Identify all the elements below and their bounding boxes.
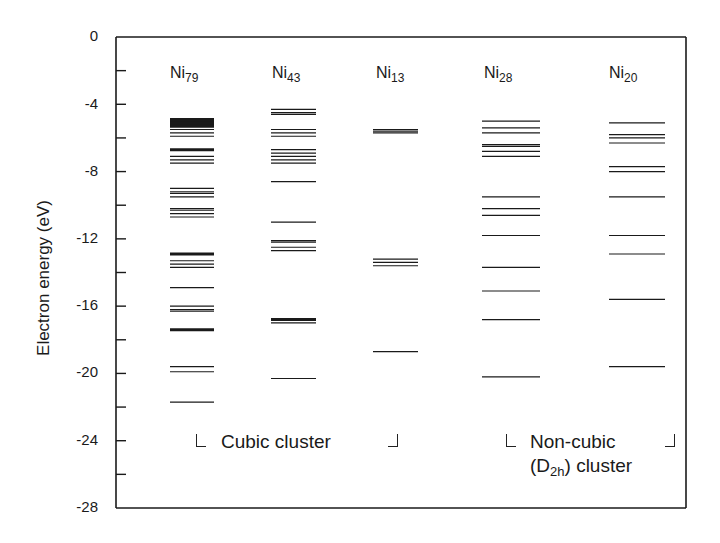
column-label-ni20: Ni20 [609, 64, 637, 85]
levels-ni28 [482, 121, 540, 377]
levels-ni79 [170, 119, 214, 402]
y-tick-label-minus12: -12 [58, 229, 98, 246]
column-label-ni79: Ni79 [170, 64, 198, 85]
levels-ni20 [609, 123, 665, 367]
cubic-cluster-label: Cubic cluster [221, 431, 331, 453]
levels-ni43 [271, 109, 316, 378]
column-label-ni28: Ni28 [484, 64, 512, 85]
y-tick-label-minus20: -20 [58, 363, 98, 380]
column-label-ni43: Ni43 [272, 64, 300, 85]
y-tick-label-minus8: -8 [58, 162, 98, 179]
levels-ni13 [373, 130, 418, 352]
noncubic-bracket-left [506, 434, 516, 447]
y-tick-label-minus24: -24 [58, 431, 98, 448]
cubic-bracket-left [196, 434, 206, 447]
column-label-ni13: Ni13 [376, 64, 404, 85]
energy-level-chart: 0 -4 -8 -12 -16 -20 -24 -28 Electron ene… [0, 0, 720, 543]
y-tick-label-minus28: -28 [58, 498, 98, 515]
y-axis-title: Electron energy (eV) [34, 200, 54, 356]
noncubic-bracket-right [665, 434, 675, 447]
y-tick-label-0: 0 [58, 27, 98, 44]
cubic-bracket-right [388, 434, 398, 447]
y-tick-label-minus4: -4 [58, 95, 98, 112]
y-tick-label-minus16: -16 [58, 296, 98, 313]
noncubic-cluster-label-line2: (D2h) cluster [530, 455, 632, 479]
noncubic-cluster-label-line1: Non-cubic [530, 431, 616, 453]
